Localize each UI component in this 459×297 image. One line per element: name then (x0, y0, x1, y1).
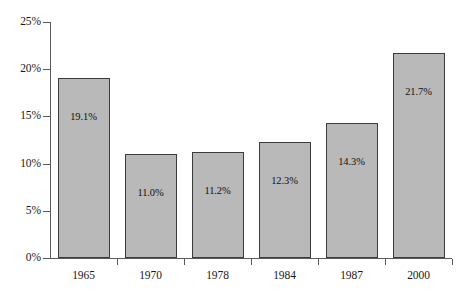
y-axis-tick (43, 22, 50, 23)
bar-value-label: 21.7% (394, 87, 444, 98)
bar-value-label: 19.1% (59, 112, 109, 123)
x-axis-tick-label: 1965 (54, 270, 114, 282)
y-axis-tick (43, 69, 50, 70)
y-axis-tick (43, 258, 50, 259)
x-axis-tick-label: 2000 (389, 270, 449, 282)
bar[interactable]: 11.2% (192, 152, 244, 258)
bar[interactable]: 21.7% (393, 53, 445, 258)
y-axis-tick-label-wrap: 25% (0, 16, 41, 28)
x-axis-tick (385, 259, 386, 265)
bar[interactable]: 19.1% (58, 78, 110, 258)
y-axis-tick-label-wrap: 20% (0, 63, 41, 75)
x-axis-tick (184, 259, 185, 265)
y-axis-tick-label: 5% (1, 205, 41, 217)
y-axis-tick-label: 15% (1, 110, 41, 122)
bar[interactable]: 11.0% (125, 154, 177, 258)
y-axis-tick-label: 25% (1, 16, 41, 28)
bar-value-label: 11.0% (126, 188, 176, 199)
x-axis-tick-label: 1970 (121, 270, 181, 282)
bar[interactable]: 14.3% (326, 123, 378, 258)
y-axis-tick-label: 10% (1, 158, 41, 170)
x-axis-tick-label: 1987 (322, 270, 382, 282)
bar-value-label: 11.2% (193, 186, 243, 197)
y-axis-tick (43, 164, 50, 165)
x-axis-tick (318, 259, 319, 265)
bar[interactable]: 12.3% (259, 142, 311, 258)
y-axis-tick-label-wrap: 0% (0, 252, 41, 264)
y-axis-tick (43, 211, 50, 212)
bar-value-label: 14.3% (327, 157, 377, 168)
x-axis-tick (251, 259, 252, 265)
y-axis-tick (43, 116, 50, 117)
plot-area: 19.1%11.0%11.2%12.3%14.3%21.7% (50, 22, 452, 258)
x-axis-tick (452, 259, 453, 265)
y-axis-tick-label-wrap: 5% (0, 205, 41, 217)
bar-chart: 0%5%10%15%20%25% 19.1%11.0%11.2%12.3%14.… (0, 0, 459, 297)
y-axis-tick-label: 20% (1, 63, 41, 75)
x-axis-tick-label: 1978 (188, 270, 248, 282)
x-axis-tick-label: 1984 (255, 270, 315, 282)
y-axis-tick-label: 0% (1, 252, 41, 264)
y-axis-tick-label-wrap: 15% (0, 110, 41, 122)
y-axis-tick-label-wrap: 10% (0, 158, 41, 170)
bar-value-label: 12.3% (260, 176, 310, 187)
x-axis-tick (117, 259, 118, 265)
